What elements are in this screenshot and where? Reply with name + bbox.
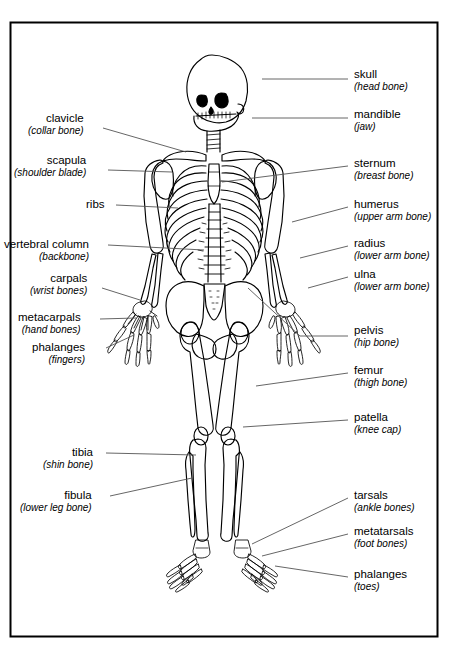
label-term-fibula: fibula xyxy=(20,489,92,502)
label-sub-tibia: (shin bone) xyxy=(43,459,93,470)
label-term-ulna: ulna xyxy=(354,268,430,281)
label-pelvis: pelvis(hip bone) xyxy=(354,324,399,348)
label-ulna: ulna(lower arm bone) xyxy=(354,268,430,292)
label-sub-phalanges-toes: (toes) xyxy=(354,581,407,592)
label-sub-patella: (knee cap) xyxy=(354,424,401,435)
label-humerus: humerus(upper arm bone) xyxy=(354,198,431,222)
label-femur: femur(thigh bone) xyxy=(354,364,407,388)
label-radius: radius(lower arm bone) xyxy=(354,237,430,261)
label-sub-humerus: (upper arm bone) xyxy=(354,211,431,222)
label-sub-sternum: (breast bone) xyxy=(354,170,413,181)
left-eye-socket xyxy=(197,95,208,107)
label-sub-metatarsals: (foot bones) xyxy=(354,538,413,549)
label-term-phalanges-toes: phalanges xyxy=(354,568,407,581)
label-sub-femur: (thigh bone) xyxy=(354,377,407,388)
label-sub-pelvis: (hip bone) xyxy=(354,337,399,348)
label-sub-phalanges-fingers: (fingers) xyxy=(32,354,85,365)
label-sub-mandible: (jaw) xyxy=(354,121,401,132)
label-sub-metacarpals: (hand bones) xyxy=(18,324,81,335)
label-sub-clavicle: (collar bone) xyxy=(28,125,84,136)
label-term-skull: skull xyxy=(354,68,408,81)
label-term-tarsals: tarsals xyxy=(354,489,415,502)
label-skull: skull(head bone) xyxy=(354,68,408,92)
label-term-sternum: sternum xyxy=(354,157,413,170)
label-term-carpals: carpals xyxy=(30,272,87,285)
label-sub-carpals: (wrist bones) xyxy=(30,285,87,296)
label-term-humerus: humerus xyxy=(354,198,431,211)
label-sub-skull: (head bone) xyxy=(354,81,408,92)
label-tarsals: tarsals(ankle bones) xyxy=(354,489,415,513)
label-term-phalanges-fingers: phalanges xyxy=(32,341,85,354)
label-ribs: ribs xyxy=(86,198,105,211)
label-scapula: scapula(shoulder blade) xyxy=(14,154,86,178)
label-term-ribs: ribs xyxy=(86,198,105,211)
label-sub-scapula: (shoulder blade) xyxy=(14,167,86,178)
label-sub-vertebral-column: (backbone) xyxy=(4,251,89,262)
label-sternum: sternum(breast bone) xyxy=(354,157,413,181)
label-term-scapula: scapula xyxy=(14,154,86,167)
label-clavicle: clavicle(collar bone) xyxy=(28,112,84,136)
label-sub-tarsals: (ankle bones) xyxy=(354,502,415,513)
label-term-pelvis: pelvis xyxy=(354,324,399,337)
label-term-clavicle: clavicle xyxy=(28,112,84,125)
label-sub-fibula: (lower leg bone) xyxy=(20,502,92,513)
label-term-femur: femur xyxy=(354,364,407,377)
label-sub-ulna: (lower arm bone) xyxy=(354,281,430,292)
label-term-patella: patella xyxy=(354,411,401,424)
label-mandible: mandible(jaw) xyxy=(354,108,401,132)
label-fibula: fibula(lower leg bone) xyxy=(20,489,92,513)
label-term-vertebral-column: vertebral column xyxy=(4,238,89,251)
label-patella: patella(knee cap) xyxy=(354,411,401,435)
label-metatarsals: metatarsals(foot bones) xyxy=(354,525,413,549)
label-metacarpals: metacarpals(hand bones) xyxy=(18,311,81,335)
label-term-metacarpals: metacarpals xyxy=(18,311,81,324)
label-term-mandible: mandible xyxy=(354,108,401,121)
skeleton-diagram: clavicle(collar bone)scapula(shoulder bl… xyxy=(0,0,458,649)
label-phalanges-fingers: phalanges(fingers) xyxy=(32,341,85,365)
label-vertebral-column: vertebral column(backbone) xyxy=(4,238,89,262)
label-term-metatarsals: metatarsals xyxy=(354,525,413,538)
label-phalanges-toes: phalanges(toes) xyxy=(354,568,407,592)
label-carpals: carpals(wrist bones) xyxy=(30,272,87,296)
right-eye-socket xyxy=(215,93,228,108)
label-sub-radius: (lower arm bone) xyxy=(354,250,430,261)
label-tibia: tibia(shin bone) xyxy=(43,446,93,470)
label-term-radius: radius xyxy=(354,237,430,250)
label-term-tibia: tibia xyxy=(43,446,93,459)
